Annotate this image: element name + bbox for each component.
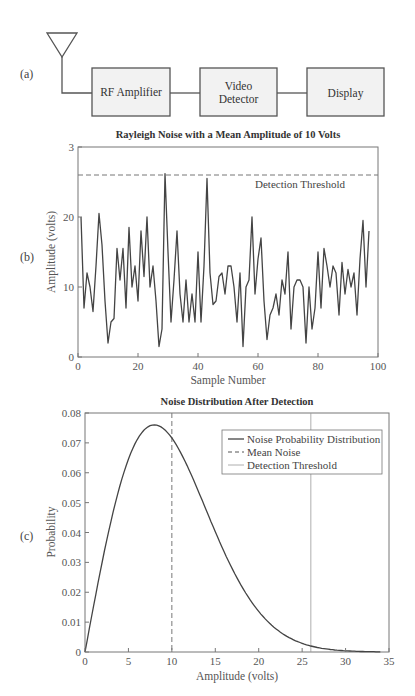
noise-plot: Detection Threshold 020406080100010203 [63, 141, 387, 372]
x-tick-label: 10 [166, 655, 178, 667]
legend-item: Mean Noise [247, 446, 301, 458]
y-tick-label: 0.05 [62, 497, 82, 509]
x-axis-label-b: Sample Number [190, 374, 265, 387]
x-tick-label: 35 [384, 655, 396, 667]
block-label: Display [328, 87, 364, 100]
block-video-detector: Video Detector [200, 68, 277, 116]
x-tick-label: 80 [313, 360, 325, 372]
y-tick-label: 20 [63, 211, 75, 223]
chart-title-c: Noise Distribution After Detection [161, 396, 314, 407]
threshold-annotation: Detection Threshold [255, 178, 345, 190]
x-tick-label: 5 [126, 655, 132, 667]
y-tick-label: 0 [76, 646, 82, 658]
block-label: Detector [219, 93, 259, 105]
panel-label-b: (b) [20, 250, 34, 264]
legend: Noise Probability Distribution Mean Nois… [222, 430, 382, 474]
x-tick-label: 100 [370, 360, 387, 372]
y-tick-label: 0.07 [62, 437, 82, 449]
noise-series-line [81, 174, 369, 347]
x-tick-label: 0 [75, 360, 81, 372]
y-axis-label-c: Probability [45, 506, 58, 557]
y-tick-label: 0 [69, 351, 75, 363]
panel-label-a: (a) [20, 67, 33, 81]
block-rf-amplifier: RF Amplifier [92, 68, 170, 116]
y-axis-label-b: Amplitude (volts) [45, 211, 58, 293]
block-label: Video [225, 80, 253, 92]
distribution-plot: 0510152025303500.010.020.030.040.050.060… [62, 407, 395, 667]
y-tick-label: 10 [63, 281, 75, 293]
y-tick-label: 0.08 [62, 407, 82, 419]
x-tick-label: 60 [253, 360, 265, 372]
panel-label-c: (c) [20, 529, 33, 543]
x-tick-label: 30 [340, 655, 352, 667]
x-axis-label-c: Amplitude (volts) [196, 670, 278, 683]
x-tick-label: 15 [210, 655, 222, 667]
y-tick-label: 0.01 [62, 616, 81, 628]
block-label: RF Amplifier [100, 86, 162, 99]
x-tick-label: 25 [297, 655, 309, 667]
x-tick-label: 20 [133, 360, 145, 372]
legend-item: Noise Probability Distribution [247, 433, 381, 445]
y-tick-label: 0.02 [62, 586, 81, 598]
legend-item: Detection Threshold [247, 459, 337, 471]
y-tick-label: 3 [69, 141, 75, 153]
y-tick-label: 0.04 [62, 527, 82, 539]
chart-title-b: Rayleigh Noise with a Mean Amplitude of … [116, 129, 341, 140]
y-tick-label: 0.03 [62, 556, 82, 568]
x-tick-label: 20 [253, 655, 265, 667]
x-tick-label: 40 [193, 360, 205, 372]
block-display: Display [307, 68, 384, 116]
y-tick-label: 0.06 [62, 467, 82, 479]
axis-ticks: 020406080100010203 [63, 141, 387, 372]
antenna-icon [47, 33, 92, 93]
figure: (a) RF Amplifier Video Detector Display … [0, 0, 415, 696]
x-tick-label: 0 [82, 655, 88, 667]
